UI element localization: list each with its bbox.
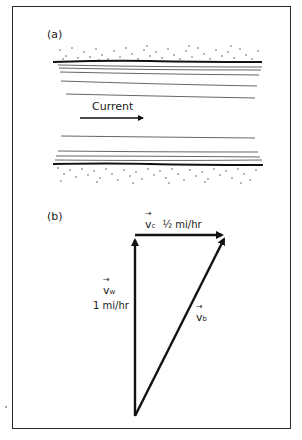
bottom-bank-sand xyxy=(57,167,256,183)
top-bank-line xyxy=(53,61,262,62)
scan-speck xyxy=(5,406,7,408)
flow-lines-bottom xyxy=(55,136,262,161)
top-bank-sand xyxy=(59,45,258,60)
boat-velocity-vector xyxy=(135,239,224,416)
river-diagram xyxy=(53,45,263,183)
boat-vector-label: vb xyxy=(196,311,207,324)
water-magnitude: 1 mi/hr xyxy=(93,300,129,311)
part-b-label: (b) xyxy=(47,210,63,223)
water-vector-symbol: vw xyxy=(103,284,115,297)
vector-triangle xyxy=(135,235,224,416)
current-vector-label: vc ½ mi/hr xyxy=(145,218,202,231)
current-magnitude: ½ mi/hr xyxy=(162,219,201,230)
flow-lines-top xyxy=(58,65,262,98)
part-a-label: (a) xyxy=(47,28,62,41)
current-label: Current xyxy=(92,100,133,113)
bottom-bank-line xyxy=(53,164,263,166)
